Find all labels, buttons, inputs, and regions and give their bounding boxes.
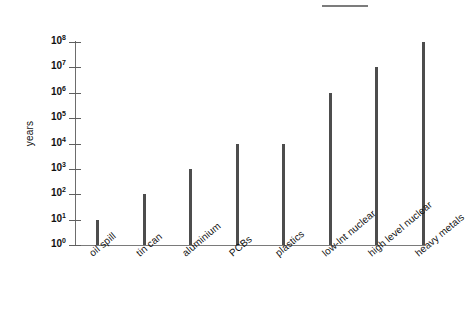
- bar-plastics: [282, 144, 285, 246]
- x-category-label-aluminium: aluminium: [180, 220, 223, 258]
- y-tick-5: [69, 118, 81, 119]
- y-tick-label-7: 107: [38, 61, 66, 71]
- bar-high-level-nuclear: [375, 67, 378, 245]
- y-tick-label-1: 101: [38, 214, 66, 224]
- y-tick-label-0: 100: [38, 239, 66, 249]
- bar-aluminium: [189, 169, 192, 245]
- y-tick-label-3: 103: [38, 163, 66, 173]
- y-tick-label-8: 108: [38, 36, 66, 46]
- y-tick-2: [69, 194, 81, 195]
- y-tick-7: [69, 67, 81, 68]
- y-tick-label-4: 104: [38, 138, 66, 148]
- y-tick-3: [69, 169, 81, 170]
- y-axis-tick-labels: 100101102103104105106107108: [36, 0, 66, 335]
- y-tick-label-2: 102: [38, 188, 66, 198]
- bar-chart: years 100101102103104105106107108 oil sp…: [0, 0, 470, 335]
- y-tick-label-5: 105: [38, 112, 66, 122]
- y-tick-8: [69, 42, 81, 43]
- y-tick-4: [69, 144, 81, 145]
- bar-pcbs: [236, 144, 239, 246]
- y-axis-title: years: [24, 104, 35, 164]
- y-tick-0: [69, 245, 81, 246]
- x-category-label-plastics: plastics: [273, 228, 306, 258]
- y-tick-label-6: 106: [38, 87, 66, 97]
- y-tick-6: [69, 93, 81, 94]
- bar-low-lnt-nuclear: [329, 93, 332, 245]
- y-tick-1: [69, 220, 81, 221]
- bar-tin-can: [143, 194, 146, 245]
